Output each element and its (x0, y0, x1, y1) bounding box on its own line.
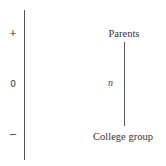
node-college-group: College group (88, 130, 158, 143)
connector-line (124, 42, 125, 126)
scale-tick-positive: + (6, 27, 20, 39)
scale-tick-zero: 0 (6, 78, 20, 90)
node-parents: Parents (104, 27, 144, 40)
connector-label: n (108, 77, 113, 88)
scale-tick-negative: − (6, 129, 20, 141)
vertical-scale-axis (24, 10, 25, 160)
